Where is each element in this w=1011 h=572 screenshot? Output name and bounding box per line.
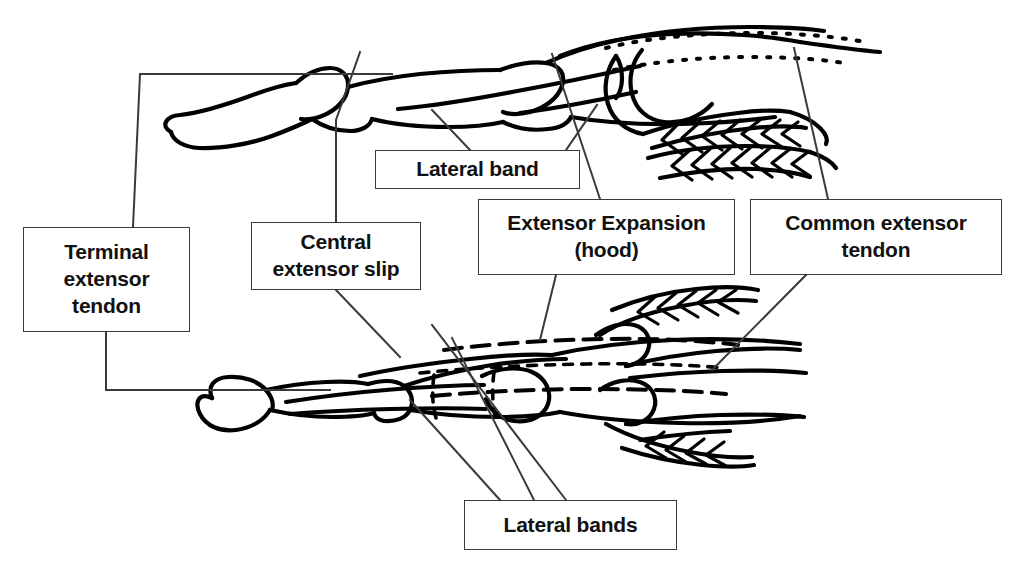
pennate-fibers-lower <box>672 148 810 180</box>
label-terminal-extensor-tendon[interactable]: Terminal extensor tendon <box>23 227 190 332</box>
label-extensor-expansion-hood[interactable]: Extensor Expansion (hood) <box>478 199 735 275</box>
label-common-extensor-tendon[interactable]: Common extensor tendon <box>750 199 1002 275</box>
central-slip-inner-upper <box>286 385 484 402</box>
dip-joint-volar <box>312 119 372 131</box>
leader-hood-to-bottom <box>540 275 556 340</box>
pennate-muscle-lower-tail <box>810 152 836 168</box>
label-central-extensor-slip[interactable]: Central extensor slip <box>251 222 421 290</box>
leader-terminal-to-top <box>133 74 392 227</box>
central-slip-inner-lower <box>290 408 486 414</box>
extensor-hood-dotted-outline <box>606 33 860 70</box>
distal-phalanx-volar-edge <box>171 119 312 148</box>
dorsal-band-upper-right-a <box>626 349 800 366</box>
leader-lateral-band-to-top-a <box>432 110 470 150</box>
dorsal-distal-tip-lower <box>197 396 270 430</box>
extensor-hood-upper-edge <box>560 33 800 56</box>
dip-joint-head <box>296 68 348 119</box>
dorsal-distal-phalanx-upper <box>266 382 368 390</box>
middle-phalanx-volar <box>372 119 503 127</box>
anatomy-diagram-figure: Terminal extensor tendon Central extenso… <box>0 0 1011 572</box>
distal-phalanx-dorsal-edge <box>165 83 296 132</box>
dorsal-distal-tip-upper <box>210 377 272 410</box>
middle-phalanx-dorsal <box>348 70 500 87</box>
mcp-head-notch <box>616 56 622 98</box>
dorsal-pennate-fibers-lower <box>646 432 726 466</box>
pip-joint-volar <box>503 117 571 130</box>
common-extensor-tendon-top <box>800 42 880 52</box>
label-lateral-bands[interactable]: Lateral bands <box>464 500 677 550</box>
leader-central-slip-to-bottom <box>336 290 400 357</box>
label-lateral-band[interactable]: Lateral band <box>375 150 580 189</box>
dorsal-band-upper-right-b <box>630 371 806 378</box>
